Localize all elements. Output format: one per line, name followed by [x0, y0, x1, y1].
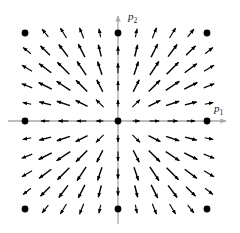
corner-marker-bottom-left — [22, 206, 29, 213]
edge-marker-top — [115, 30, 122, 37]
edge-marker-right — [204, 118, 211, 125]
edge-marker-left — [22, 118, 29, 125]
corner-marker-bottom-right — [204, 206, 211, 213]
vector-field-figure: p2 p1 — [0, 0, 240, 233]
corner-marker-top-right — [204, 30, 211, 37]
origin-marker — [115, 118, 122, 125]
edge-marker-bottom — [115, 206, 122, 213]
y-axis-label-subscript: 2 — [134, 16, 138, 25]
x-axis-label-subscript: 1 — [220, 108, 224, 117]
phase-portrait-plot: p2 p1 — [0, 0, 240, 233]
corner-marker-top-left — [22, 30, 29, 37]
